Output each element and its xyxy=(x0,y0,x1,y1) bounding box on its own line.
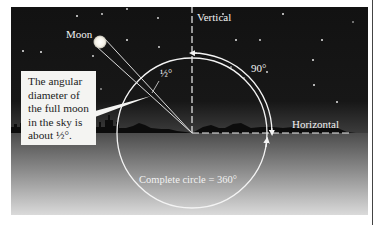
half-degree-label: ½° xyxy=(160,69,172,80)
right-angle-label: 90° xyxy=(251,63,266,74)
vertical-label: Vertical xyxy=(197,12,231,23)
callout-line: about ½°. xyxy=(28,129,93,143)
page-edge-rule xyxy=(372,0,373,225)
horizontal-label: Horizontal xyxy=(292,119,339,130)
callout-line: the full moon xyxy=(28,102,93,116)
moon-label: Moon xyxy=(66,29,92,40)
moon-icon xyxy=(94,36,107,49)
angle-diagram: Moon Vertical 90° ½° Horizontal Complete… xyxy=(11,7,368,215)
callout-line: in the sky is xyxy=(28,116,93,130)
callout-line: diameter of xyxy=(28,89,93,103)
callout-line: The angular xyxy=(28,75,93,89)
complete-circle-label: Complete circle = 360° xyxy=(139,175,237,186)
callout-box: The angular diameter of the full moon in… xyxy=(21,71,96,145)
